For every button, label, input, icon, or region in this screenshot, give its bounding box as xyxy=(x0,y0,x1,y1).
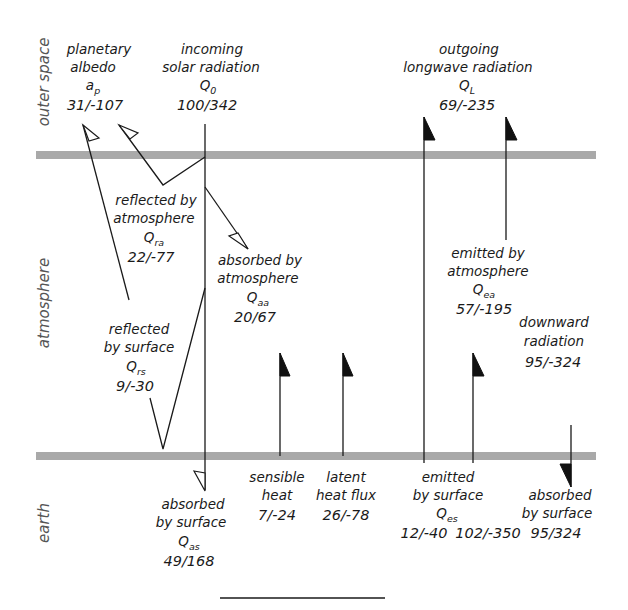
svg-text:by surface: by surface xyxy=(156,514,227,530)
svg-text:radiation: radiation xyxy=(524,333,584,349)
svg-text:reflected by: reflected by xyxy=(115,192,197,208)
svg-text:Qra: Qra xyxy=(144,229,165,248)
svg-text:by surface: by surface xyxy=(413,487,484,503)
svg-text:57/-195: 57/-195 xyxy=(456,301,512,317)
svg-text:7/-24: 7/-24 xyxy=(258,507,296,523)
svg-text:atmosphere: atmosphere xyxy=(447,263,528,279)
svg-text:Q0: Q0 xyxy=(200,77,217,96)
svg-text:Qaa: Qaa xyxy=(247,289,269,308)
svg-text:heat flux: heat flux xyxy=(316,487,377,503)
emitted-by-surface-label: emitted by surface Qes 12/-40 102/-350 xyxy=(400,469,520,541)
svg-text:planetary: planetary xyxy=(66,41,133,57)
incoming-solar-label: incoming solar radiation Q0 100/342 xyxy=(162,41,259,113)
energy-balance-diagram: outer space atmosphere earth planetary a… xyxy=(0,0,628,610)
sensible-heat-label: sensible heat 7/-24 xyxy=(249,469,304,523)
svg-text:9/-30: 9/-30 xyxy=(116,378,154,394)
svg-text:31/-107: 31/-107 xyxy=(67,97,124,113)
svg-text:ap: ap xyxy=(86,77,100,96)
svg-text:absorbed: absorbed xyxy=(161,496,225,512)
svg-text:outgoing: outgoing xyxy=(439,41,499,57)
svg-text:atmosphere: atmosphere xyxy=(113,210,194,226)
reflected-by-atmosphere-arrowhead-icon xyxy=(119,125,138,139)
svg-text:absorbed by: absorbed by xyxy=(218,252,303,268)
svg-text:QL: QL xyxy=(459,77,475,96)
downward-radiation-arrowhead-icon xyxy=(560,464,571,487)
svg-text:by surface: by surface xyxy=(104,339,175,355)
reflected-by-surface-label: reflected by surface Qrs 9/-30 xyxy=(104,321,175,394)
emitted-by-atmosphere-arrowhead-icon xyxy=(506,117,517,140)
absorbed-by-surface-solar-label: absorbed by surface Qas 49/168 xyxy=(156,496,227,569)
svg-text:incoming: incoming xyxy=(181,41,243,57)
sensible-heat-arrowhead-icon xyxy=(280,353,290,376)
svg-text:20/67: 20/67 xyxy=(234,309,277,325)
planetary-albedo-arrowhead-icon xyxy=(83,125,99,141)
earth-surface-band xyxy=(36,452,596,460)
emitted-by-atmosphere-label: emitted by atmosphere Qea 57/-195 xyxy=(447,245,528,317)
latent-heat-arrowhead-icon xyxy=(343,353,353,376)
svg-text:reflected: reflected xyxy=(109,321,170,337)
svg-text:102/-350: 102/-350 xyxy=(455,525,520,541)
svg-text:95/-324: 95/-324 xyxy=(525,354,581,370)
svg-text:sensible: sensible xyxy=(249,469,304,485)
absorbed-by-surface-arrowhead-icon xyxy=(194,471,205,491)
reflected-by-atmosphere-label: reflected by atmosphere Qra 22/-77 xyxy=(113,192,197,265)
svg-text:69/-235: 69/-235 xyxy=(439,97,495,113)
svg-text:Qrs: Qrs xyxy=(126,358,146,377)
svg-text:26/-78: 26/-78 xyxy=(322,507,369,523)
top-of-atmosphere-band xyxy=(36,151,596,159)
svg-text:heat: heat xyxy=(262,487,293,503)
absorbed-by-atmosphere-label: absorbed by atmosphere Qaa 20/67 xyxy=(217,252,303,325)
svg-text:95/324: 95/324 xyxy=(530,525,581,541)
svg-text:atmosphere: atmosphere xyxy=(217,270,298,286)
svg-text:longwave radiation: longwave radiation xyxy=(403,59,532,75)
outgoing-longwave-label: outgoing longwave radiation QL 69/-235 xyxy=(403,41,532,113)
downward-radiation-label: downward radiation 95/-324 xyxy=(519,314,589,370)
svg-text:latent: latent xyxy=(326,469,366,485)
svg-text:22/-77: 22/-77 xyxy=(127,249,175,265)
zone-label-earth: earth xyxy=(35,503,53,543)
svg-text:emitted: emitted xyxy=(422,469,475,485)
svg-text:Qes: Qes xyxy=(436,505,457,524)
planetary-albedo-label: planetary albedo ap 31/-107 xyxy=(66,41,133,113)
svg-text:downward: downward xyxy=(519,314,589,330)
svg-text:49/168: 49/168 xyxy=(163,553,214,569)
svg-text:12/-40: 12/-40 xyxy=(400,525,447,541)
svg-text:Qas: Qas xyxy=(178,533,199,552)
svg-text:emitted by: emitted by xyxy=(451,245,526,261)
svg-text:solar radiation: solar radiation xyxy=(162,59,259,75)
emitted-by-surface-arrowhead-icon xyxy=(473,353,484,376)
absorbed-by-atmosphere-arrowhead-icon xyxy=(229,233,248,249)
latent-heat-label: latent heat flux 26/-78 xyxy=(316,469,377,523)
reflected-by-surface-line xyxy=(150,288,205,449)
outgoing-surface-arrowhead-icon xyxy=(424,117,435,140)
svg-text:100/342: 100/342 xyxy=(177,97,237,113)
zone-label-atmosphere: atmosphere xyxy=(35,258,53,348)
svg-text:albedo: albedo xyxy=(70,59,116,75)
svg-text:by surface: by surface xyxy=(522,505,593,521)
zone-label-outer-space: outer space xyxy=(35,38,53,127)
svg-text:Qea: Qea xyxy=(473,281,495,300)
svg-text:absorbed: absorbed xyxy=(528,487,592,503)
absorbed-by-surface-longwave-label: absorbed by surface 95/324 xyxy=(522,487,593,541)
